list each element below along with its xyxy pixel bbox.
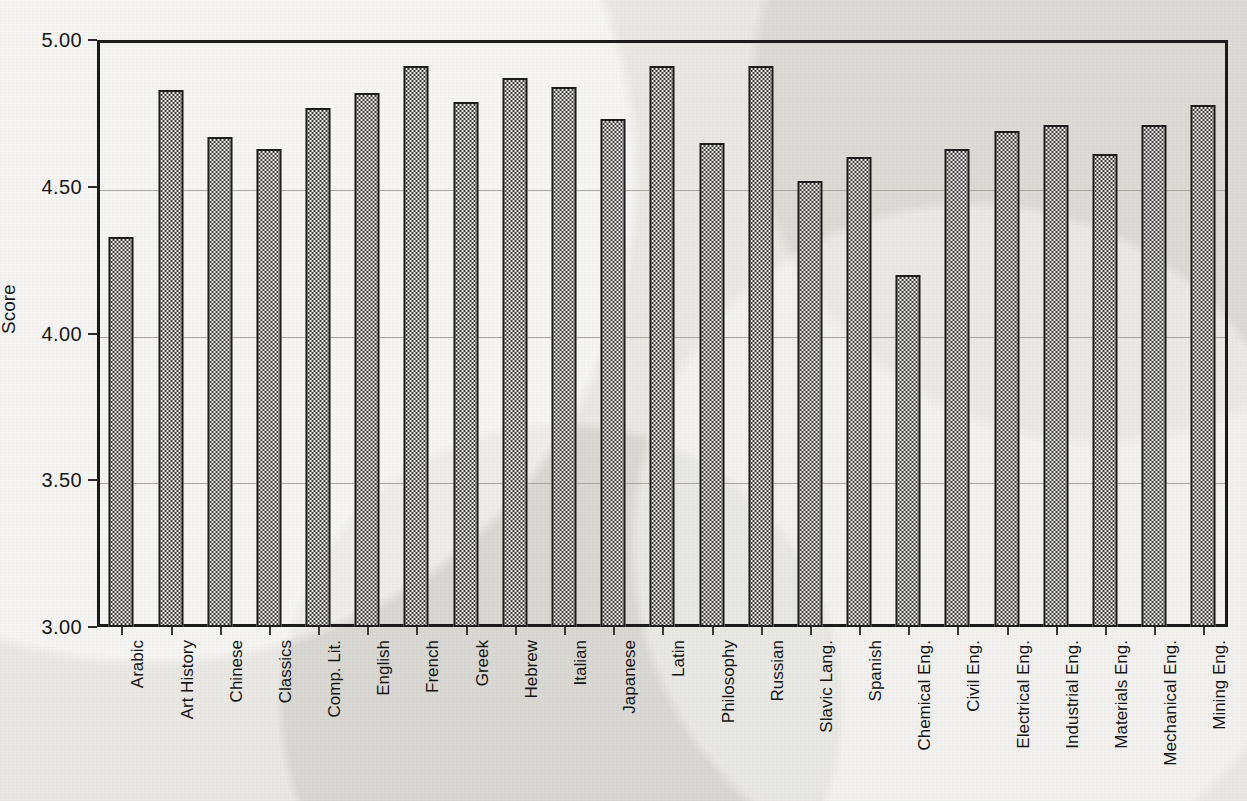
bar-slot — [1031, 40, 1080, 627]
bar-slot — [589, 40, 638, 627]
bar-slot — [343, 40, 392, 627]
x-axis-label-slot: Spanish — [835, 636, 884, 796]
x-axis-tick-mark — [761, 627, 763, 635]
x-axis-label-slot: Classics — [245, 636, 294, 796]
x-axis-label-slot: Art History — [146, 636, 195, 796]
bar[interactable] — [1142, 125, 1167, 627]
x-axis-label-slot: Industrial Eng. — [1031, 636, 1080, 796]
x-axis-tick-mark — [712, 627, 714, 635]
y-axis-tick-label: 3.00 — [0, 616, 82, 639]
bar[interactable] — [306, 108, 331, 627]
bar-slot — [294, 40, 343, 627]
x-axis-label-slot: Slavic Lang. — [785, 636, 834, 796]
x-axis-tick-mark — [121, 627, 123, 635]
x-axis-label-slot: Philosophy — [687, 636, 736, 796]
x-axis-label-slot: Mining Eng. — [1179, 636, 1228, 796]
y-axis-tick-label: 4.50 — [0, 175, 82, 198]
bar-slot — [245, 40, 294, 627]
bar-slot — [97, 40, 146, 627]
bar-slot — [195, 40, 244, 627]
bar[interactable] — [256, 149, 281, 627]
x-axis-tick-mark — [318, 627, 320, 635]
bar-slot — [392, 40, 441, 627]
y-axis-tick-label: 4.00 — [0, 322, 82, 345]
bar[interactable] — [748, 66, 773, 627]
x-axis-tick-mark — [171, 627, 173, 635]
bar[interactable] — [355, 93, 380, 627]
bar[interactable] — [797, 181, 822, 627]
bar-slot — [441, 40, 490, 627]
x-axis-tick-mark — [810, 627, 812, 635]
x-axis-tick-mark — [908, 627, 910, 635]
y-axis-tick-mark — [88, 39, 97, 41]
bar-slot — [1080, 40, 1129, 627]
bar[interactable] — [847, 157, 872, 627]
x-axis-label-slot: Greek — [441, 636, 490, 796]
bar[interactable] — [1043, 125, 1068, 627]
y-axis-tick-mark — [88, 333, 97, 335]
x-axis-tick-mark — [1056, 627, 1058, 635]
x-axis-label-slot: Japanese — [589, 636, 638, 796]
bar[interactable] — [699, 143, 724, 627]
x-axis-label-slot: Electrical Eng. — [982, 636, 1031, 796]
x-axis-label-slot: Comp. Lit. — [294, 636, 343, 796]
bar[interactable] — [601, 119, 626, 627]
bar-slot — [1179, 40, 1228, 627]
y-axis-tick-label: 5.00 — [0, 29, 82, 52]
x-axis-label-slot: Materials Eng. — [1080, 636, 1129, 796]
bar-slot — [687, 40, 736, 627]
x-axis-label-slot: Russian — [736, 636, 785, 796]
bar[interactable] — [404, 66, 429, 627]
bar-slot — [146, 40, 195, 627]
bar-slot — [736, 40, 785, 627]
x-axis-label-slot: Italian — [540, 636, 589, 796]
x-axis-tick-mark — [416, 627, 418, 635]
y-axis-tick-mark — [88, 479, 97, 481]
y-axis-tick-label: 3.50 — [0, 469, 82, 492]
x-axis-label-slot: Civil Eng. — [933, 636, 982, 796]
bar-slot — [884, 40, 933, 627]
bar-slot — [933, 40, 982, 627]
bar[interactable] — [552, 87, 577, 627]
x-axis-tick-mark — [269, 627, 271, 635]
bar[interactable] — [896, 275, 921, 627]
x-axis-tick-mark — [613, 627, 615, 635]
x-axis-tick-mark — [564, 627, 566, 635]
x-axis-tick-mark — [367, 627, 369, 635]
bar[interactable] — [502, 78, 527, 627]
bar[interactable] — [453, 102, 478, 627]
bar[interactable] — [207, 137, 232, 627]
bar[interactable] — [650, 66, 675, 627]
y-axis-tick-mark — [88, 626, 97, 628]
bar-slot — [1130, 40, 1179, 627]
x-axis-label-slot: Latin — [638, 636, 687, 796]
x-axis-tick-mark — [1203, 627, 1205, 635]
bar-series — [97, 40, 1228, 627]
bar[interactable] — [1191, 105, 1216, 627]
bar[interactable] — [945, 149, 970, 627]
x-axis-label-slot: Chemical Eng. — [884, 636, 933, 796]
bar-slot — [785, 40, 834, 627]
x-axis-tick-mark — [859, 627, 861, 635]
x-axis-tick-mark — [662, 627, 664, 635]
bar[interactable] — [994, 131, 1019, 627]
x-axis-tick-mark — [1007, 627, 1009, 635]
bar[interactable] — [109, 237, 134, 627]
bar[interactable] — [1092, 154, 1117, 627]
bar-slot — [835, 40, 884, 627]
x-axis-tick-mark — [957, 627, 959, 635]
x-axis-label-slot: Chinese — [195, 636, 244, 796]
x-axis-label-slot: Hebrew — [490, 636, 539, 796]
bar-slot — [982, 40, 1031, 627]
x-axis-tick-label: Mining Eng. — [1210, 640, 1230, 730]
x-axis-tick-mark — [1154, 627, 1156, 635]
x-axis-tick-mark — [1105, 627, 1107, 635]
bar[interactable] — [158, 90, 183, 627]
bar-slot — [540, 40, 589, 627]
y-axis-tick-mark — [88, 186, 97, 188]
bar-chart: Score 5.004.504.003.503.00 ArabicArt His… — [0, 0, 1247, 801]
x-axis-tick-mark — [466, 627, 468, 635]
x-axis-label-slot: English — [343, 636, 392, 796]
x-axis-tick-mark — [220, 627, 222, 635]
x-axis-label-slot: Mechanical Eng. — [1130, 636, 1179, 796]
